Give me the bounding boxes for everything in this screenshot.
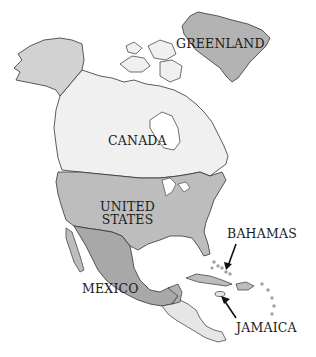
canada-region	[54, 70, 228, 178]
hispaniola	[236, 282, 254, 290]
arctic-islands	[120, 40, 182, 82]
label-united-states: UNITED STATES	[100, 200, 155, 226]
label-bahamas: BAHAMAS	[227, 227, 297, 240]
jamaica-island	[215, 292, 225, 297]
jamaica-arrow	[221, 296, 236, 318]
bahamas-arrow	[224, 244, 236, 270]
map-svg	[0, 0, 316, 357]
label-mexico: MEXICO	[82, 282, 139, 295]
label-states: STATES	[100, 213, 155, 226]
label-canada: CANADA	[108, 134, 167, 147]
north-america-map: GREENLAND CANADA UNITED STATES MEXICO BA…	[0, 0, 316, 357]
central-america-region	[162, 300, 226, 342]
label-jamaica: JAMAICA	[236, 321, 297, 334]
cuba	[186, 274, 232, 286]
label-greenland: GREENLAND	[176, 37, 265, 50]
bahamas-islands	[211, 261, 231, 275]
lesser-antilles	[261, 283, 275, 315]
